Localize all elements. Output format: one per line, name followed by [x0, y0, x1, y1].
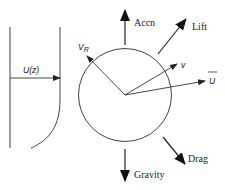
velocity-profile-curve	[31, 27, 60, 148]
particle-force-diagram: U(z) VR v U Accn Lift Gravity Drag	[0, 0, 225, 190]
drag-label: Drag	[188, 153, 208, 164]
relative-velocity-label: VR	[78, 42, 89, 53]
lift-arrow	[158, 19, 186, 54]
gravity-label: Gravity	[134, 169, 165, 180]
relative-velocity-arrow	[87, 56, 125, 95]
profile-velocity-label: U(z)	[23, 65, 39, 75]
particle-velocity-label: v	[181, 60, 186, 70]
mean-flow-label: U	[209, 76, 216, 86]
acceleration-label: Accn	[134, 17, 155, 28]
lift-label: Lift	[192, 21, 207, 32]
drag-arrow	[163, 137, 185, 164]
